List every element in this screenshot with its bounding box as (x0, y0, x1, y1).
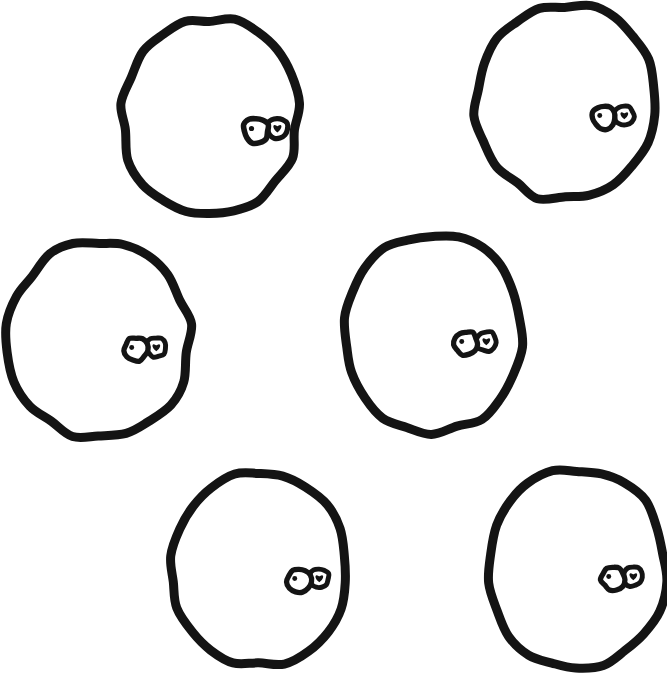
dot-ring-outline (454, 332, 478, 356)
blob-outline (474, 5, 655, 199)
top-right-blob (474, 5, 655, 199)
dot-ring-outline (287, 569, 312, 592)
middle-left-blob (6, 243, 192, 438)
eye-pair-mark (124, 338, 166, 361)
eye-pair-mark (287, 569, 329, 592)
hand-drawn-illustration (0, 0, 667, 676)
eye-pair-mark (243, 119, 287, 144)
pupil-dot (606, 574, 611, 579)
pupil-dot (459, 339, 464, 344)
eye-pair-mark (592, 106, 634, 130)
bottom-right-blob (488, 470, 667, 668)
dot-ring-outline (124, 338, 148, 361)
dot-ring-outline (592, 106, 615, 129)
blob-outline (121, 19, 300, 214)
eye-pair-mark (454, 332, 497, 356)
dot-ring-outline (600, 567, 625, 590)
drawing-canvas (0, 0, 667, 676)
dot-ring-outline (243, 119, 268, 144)
pupil-dot (292, 576, 297, 581)
pupil-dot (597, 113, 602, 118)
middle-right-blob (344, 236, 522, 435)
bottom-left-blob (170, 473, 345, 665)
pupil-dot (129, 345, 134, 350)
eye-pair-mark (600, 567, 642, 591)
top-left-blob (121, 19, 300, 214)
pupil-dot (249, 126, 254, 131)
